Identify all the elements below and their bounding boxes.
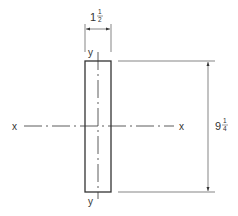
width-dimension: 1 1 2 xyxy=(85,8,111,52)
width-numerator: 1 xyxy=(98,8,102,15)
x-axis-label-left: x xyxy=(12,121,17,132)
x-axis-label-right: x xyxy=(179,121,184,132)
section-diagram: x x y y 1 1 2 9 1 4 xyxy=(0,0,238,216)
width-denominator: 2 xyxy=(98,16,102,23)
height-whole: 9 xyxy=(215,120,221,132)
height-denominator: 4 xyxy=(223,125,227,132)
width-whole: 1 xyxy=(90,11,96,23)
y-axis-label-top: y xyxy=(88,47,93,58)
height-dimension: 9 1 4 xyxy=(118,61,228,192)
y-axis-label-bottom: y xyxy=(88,196,93,207)
height-numerator: 1 xyxy=(223,117,227,124)
